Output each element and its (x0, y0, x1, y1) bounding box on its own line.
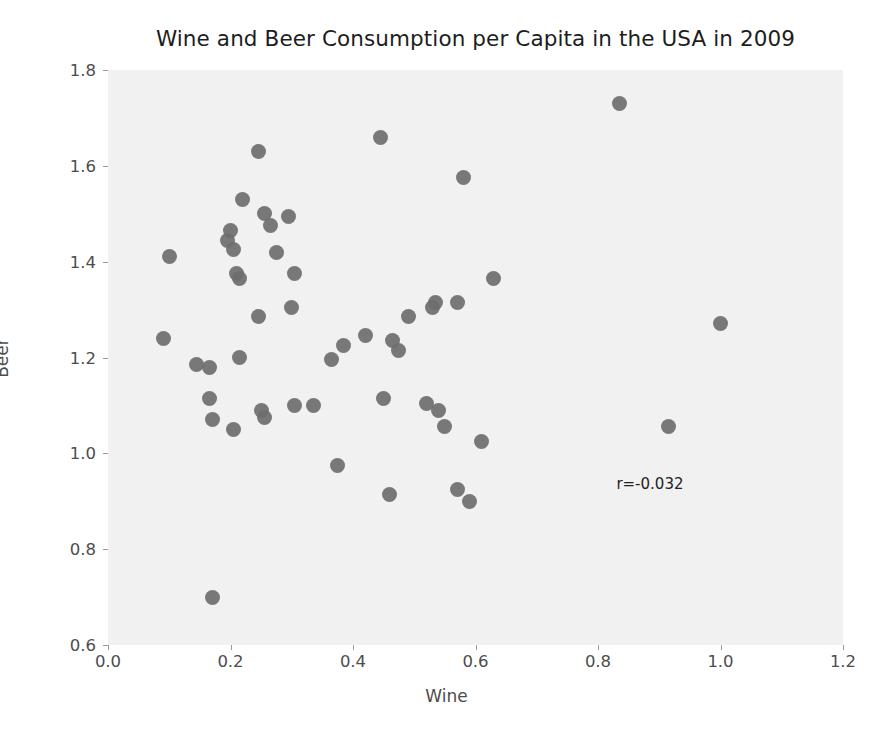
data-point (287, 398, 302, 413)
data-point (462, 494, 477, 509)
data-point (330, 458, 345, 473)
data-point (205, 412, 220, 427)
data-point (251, 144, 266, 159)
data-point (450, 295, 465, 310)
data-point (336, 338, 351, 353)
y-tick-mark (103, 645, 108, 646)
data-point (257, 410, 272, 425)
data-point (269, 245, 284, 260)
y-tick-label: 1.0 (36, 444, 96, 463)
x-tick-label: 0.2 (201, 652, 261, 671)
data-point (391, 343, 406, 358)
x-axis-label: Wine (0, 686, 893, 706)
y-axis-label: Beer (0, 338, 12, 378)
x-tick-mark (108, 645, 109, 650)
x-tick-label: 0.0 (78, 652, 138, 671)
data-point (713, 316, 728, 331)
x-tick-mark (476, 645, 477, 650)
data-point (232, 350, 247, 365)
data-point (373, 130, 388, 145)
data-point (358, 328, 373, 343)
y-tick-label: 0.8 (36, 540, 96, 559)
data-point (428, 295, 443, 310)
x-tick-label: 1.0 (691, 652, 751, 671)
x-tick-mark (843, 645, 844, 650)
x-tick-label: 0.6 (446, 652, 506, 671)
data-point (232, 271, 247, 286)
data-point (156, 331, 171, 346)
scatter-plot-figure: Wine and Beer Consumption per Capita in … (0, 0, 893, 741)
data-point (251, 309, 266, 324)
y-tick-label: 1.8 (36, 61, 96, 80)
y-tick-label: 1.2 (36, 348, 96, 367)
data-point (376, 391, 391, 406)
data-point (235, 192, 250, 207)
data-point (162, 249, 177, 264)
data-point (205, 590, 220, 605)
x-tick-label: 0.8 (568, 652, 628, 671)
data-point (612, 96, 627, 111)
data-point (287, 266, 302, 281)
data-point (223, 223, 238, 238)
data-point (437, 419, 452, 434)
data-point (450, 482, 465, 497)
chart-title: Wine and Beer Consumption per Capita in … (108, 26, 843, 51)
data-point (486, 271, 501, 286)
x-tick-mark (598, 645, 599, 650)
x-tick-label: 0.4 (323, 652, 383, 671)
data-point (306, 398, 321, 413)
x-tick-mark (231, 645, 232, 650)
data-point (474, 434, 489, 449)
y-tick-label: 1.6 (36, 156, 96, 175)
data-point (281, 209, 296, 224)
data-point (226, 422, 241, 437)
data-point (456, 170, 471, 185)
data-point (431, 403, 446, 418)
data-point (661, 419, 676, 434)
y-tick-label: 0.6 (36, 636, 96, 655)
data-point (202, 391, 217, 406)
data-point (324, 352, 339, 367)
y-tick-label: 1.4 (36, 252, 96, 271)
data-point (263, 218, 278, 233)
plot-area: r=-0.032 (108, 70, 843, 645)
data-point (401, 309, 416, 324)
x-tick-label: 1.2 (813, 652, 873, 671)
data-point (202, 360, 217, 375)
x-tick-mark (721, 645, 722, 650)
data-point (284, 300, 299, 315)
data-point (382, 487, 397, 502)
x-tick-mark (353, 645, 354, 650)
data-point (226, 242, 241, 257)
correlation-annotation: r=-0.032 (616, 475, 683, 493)
